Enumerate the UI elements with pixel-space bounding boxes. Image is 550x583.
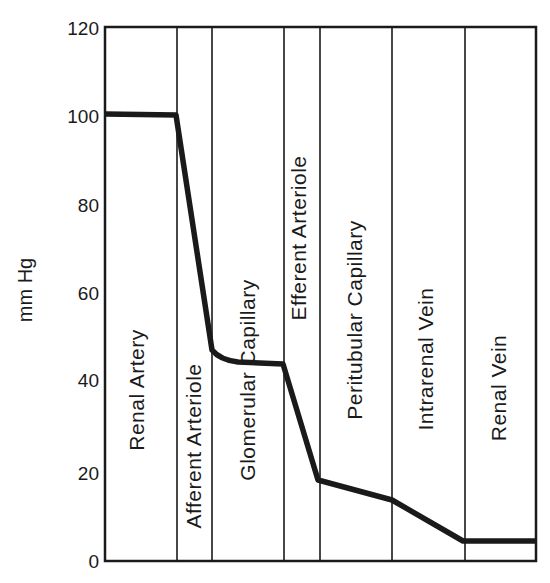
y-tick-60: 60 — [78, 283, 99, 304]
y-axis-label: mm Hg — [14, 258, 36, 322]
y-tick-20: 20 — [78, 463, 99, 484]
pressure-chart: 0 20 40 60 80 100 120 mm Hg Renal Artery… — [0, 0, 550, 583]
segment-label-glomerular-capillary: Glomerular Capillary — [236, 279, 259, 480]
segment-label-renal-vein: Renal Vein — [487, 335, 510, 442]
segment-label-intrarenal-vein: Intrarenal Vein — [414, 288, 437, 431]
y-tick-0: 0 — [88, 551, 99, 572]
y-tick-40: 40 — [78, 370, 99, 391]
segment-label-afferent-arteriole: Afferent Arteriole — [182, 363, 205, 528]
segment-label-renal-artery: Renal Artery — [125, 329, 148, 451]
y-axis-ticks: 0 20 40 60 80 100 120 — [67, 18, 99, 572]
segment-label-peritubular-capillary: Peritubular Capillary — [343, 220, 366, 420]
segment-label-efferent-arteriole: Efferent Arteriole — [287, 155, 310, 320]
y-tick-120: 120 — [67, 18, 99, 39]
y-tick-100: 100 — [67, 106, 99, 127]
y-tick-80: 80 — [78, 195, 99, 216]
